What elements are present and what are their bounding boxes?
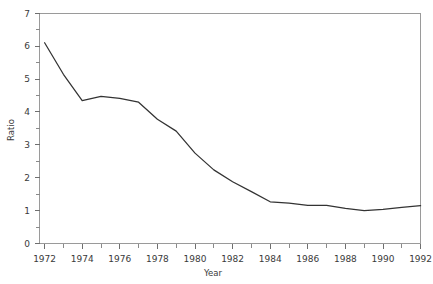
x-tick-group-8: 1988 [334, 244, 357, 265]
y-tick-label: 7 [24, 9, 30, 19]
x-tick-label: 1984 [259, 254, 282, 264]
data-series-line [45, 43, 421, 211]
y-tick-group-6: 6 [24, 41, 39, 51]
plot-frame [40, 14, 421, 244]
y-tick-group-3: 3 [24, 140, 39, 150]
y-axis-title: Ratio [6, 119, 16, 141]
y-axis: 0 1 2 3 4 5 6 [24, 9, 39, 249]
x-tick-group-10: 1992 [409, 244, 432, 265]
y-tick-group-1: 1 [24, 206, 39, 216]
x-tick-group-6: 1984 [259, 244, 282, 265]
y-tick-group-5: 5 [24, 74, 39, 84]
y-tick-group-7: 7 [24, 9, 39, 19]
y-tick-group-2: 2 [24, 173, 39, 183]
y-tick-label: 1 [24, 206, 30, 216]
y-tick-label: 3 [24, 140, 30, 150]
x-tick-label: 1990 [372, 254, 395, 264]
x-tick-group-9: 1990 [372, 244, 395, 265]
y-tick-label: 0 [24, 239, 30, 249]
x-tick-label: 1988 [334, 254, 357, 264]
y-tick-label: 6 [24, 41, 30, 51]
x-tick-group-4: 1980 [184, 244, 207, 265]
x-tick-label: 1974 [71, 254, 94, 264]
x-tick-group-2: 1976 [108, 244, 131, 265]
x-tick-label: 1978 [146, 254, 169, 264]
x-axis-title: Year [203, 268, 223, 278]
x-tick-group-5: 1982 [221, 244, 244, 265]
y-tick-label: 2 [24, 173, 30, 183]
x-tick-label: 1992 [409, 254, 432, 264]
x-tick-label: 1972 [33, 254, 56, 264]
y-tick-label: 5 [24, 74, 30, 84]
x-tick-label: 1986 [296, 254, 319, 264]
x-tick-label: 1982 [221, 254, 244, 264]
y-tick-label: 4 [24, 107, 30, 117]
x-tick-group-1: 1974 [71, 244, 94, 265]
x-tick-group-0: 1972 [33, 244, 56, 265]
chart-page: 0 1 2 3 4 5 6 [0, 0, 433, 284]
line-chart: 0 1 2 3 4 5 6 [0, 0, 433, 284]
y-tick-group-0: 0 [24, 239, 39, 249]
x-axis: 1972 1974 1976 1978 1980 1982 [33, 244, 432, 265]
x-tick-group-7: 1986 [296, 244, 319, 265]
y-tick-group-4: 4 [24, 107, 39, 117]
axis-spines [40, 14, 421, 244]
x-tick-label: 1980 [184, 254, 207, 264]
x-tick-group-3: 1978 [146, 244, 169, 265]
x-tick-label: 1976 [108, 254, 131, 264]
